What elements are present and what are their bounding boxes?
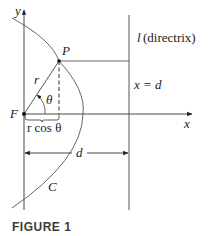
point-p-label: P [61,43,70,58]
figure-caption: FIGURE 1 [12,220,71,234]
directrix-name-label: l [137,30,141,45]
curve-label: C [48,179,57,194]
angle-label: θ [46,92,53,107]
x-axis-label: x [183,116,190,131]
angle-arc [37,95,45,114]
focus-label: F [9,106,19,121]
directrix-equation-label: x = d [133,77,162,92]
directrix-desc-label: (directrix) [143,30,196,45]
point-p [57,59,61,63]
y-axis-label: y [13,3,21,18]
conic-diagram: y x l (directrix) x = d C r θ F P r cos … [0,0,210,236]
distance-label: d [76,145,83,160]
radius-line [24,61,59,114]
projection-label: r cos θ [27,120,61,135]
radius-label: r [34,72,40,87]
